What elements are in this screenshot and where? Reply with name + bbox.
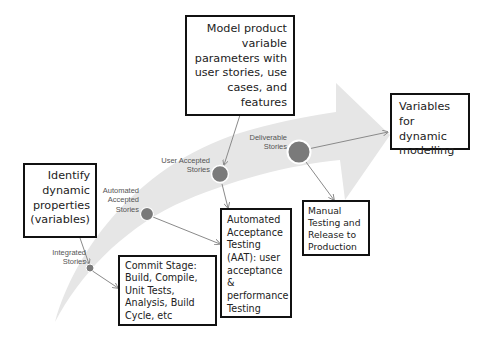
label-line: Stories — [238, 142, 287, 151]
connector-user-aat — [222, 184, 228, 208]
label-line: Stories — [150, 165, 210, 174]
node-integrated-stories — [86, 264, 94, 272]
connector-automated-aat — [148, 215, 220, 244]
box-automated-acceptance-testing: Automated Acceptance Testing (AAT): user… — [220, 208, 292, 318]
connector-deliverable-manual — [306, 162, 334, 200]
node-automated-accepted-stories — [141, 208, 154, 221]
label-user-accepted-stories: User Accepted Stories — [150, 156, 210, 175]
box-manual-testing-release: Manual Testing and Release to Production — [302, 200, 370, 256]
node-deliverable-stories — [288, 141, 311, 164]
box-variables-for-dynamic-modelling: Variables for dynamic modelling — [390, 93, 470, 150]
label-line: User Accepted — [150, 156, 210, 165]
node-user-accepted-stories — [212, 166, 229, 183]
label-line: Accepted — [94, 195, 139, 204]
box-commit-stage: Commit Stage: Build, Compile, Unit Tests… — [118, 255, 217, 326]
label-automated-accepted-stories: Automated Accepted Stories — [94, 186, 139, 214]
label-line: Stories — [94, 205, 139, 214]
label-integrated-stories: Integrated Stories — [40, 248, 86, 267]
label-deliverable-stories: Deliverable Stories — [238, 133, 287, 152]
label-line: Stories — [40, 257, 86, 266]
box-identify-dynamic-properties: Identify dynamic properties (variables) — [23, 163, 97, 238]
box-model-product-parameters: Model product variable parameters with u… — [185, 15, 295, 116]
connector-integrated-commit — [91, 270, 118, 288]
label-line: Integrated — [40, 248, 86, 257]
label-line: Automated — [94, 186, 139, 195]
label-line: Deliverable — [238, 133, 287, 142]
